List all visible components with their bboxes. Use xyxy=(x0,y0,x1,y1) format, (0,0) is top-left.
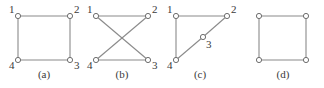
graph-node-b-1 xyxy=(93,13,98,18)
graph-node-label-c-1: 1 xyxy=(167,3,173,15)
graph-node-label-a-3: 3 xyxy=(74,59,80,71)
graph-node-label-c-3: 3 xyxy=(206,38,212,50)
graph-node-a-4 xyxy=(15,57,20,62)
graph-node-label-b-4: 4 xyxy=(87,59,93,71)
graph-node-c-1 xyxy=(173,13,178,18)
graph-node-c-4 xyxy=(173,57,178,62)
graph-node-label-c-2: 2 xyxy=(231,3,237,15)
graph-node-label-a-2: 2 xyxy=(74,3,80,15)
graph-node-a-2 xyxy=(67,13,72,18)
panel-caption-b: (b) xyxy=(116,68,129,81)
graph-node-c-3 xyxy=(200,34,205,39)
graph-node-a-3 xyxy=(67,57,72,62)
graph-node-label-a-1: 1 xyxy=(9,3,15,15)
graph-panel-a: 1234(a) xyxy=(9,3,80,81)
graph-node-b-2 xyxy=(145,13,150,18)
graph-node-label-c-4: 4 xyxy=(167,59,173,71)
graph-node-d-tr xyxy=(303,13,308,18)
graph-panel-d: (d) xyxy=(256,13,308,81)
graph-edge-c-3-2 xyxy=(203,16,227,37)
graph-node-d-br xyxy=(303,57,308,62)
graph-node-d-bl xyxy=(256,57,261,62)
panel-caption-a: (a) xyxy=(38,68,51,81)
graph-panel-b: 1234(b) xyxy=(87,3,158,81)
graph-panel-c: 1234(c) xyxy=(167,3,237,81)
graph-node-b-4 xyxy=(93,57,98,62)
graph-node-label-b-1: 1 xyxy=(87,3,93,15)
graph-node-b-3 xyxy=(145,57,150,62)
graph-node-c-2 xyxy=(224,13,229,18)
panel-caption-d: (d) xyxy=(277,68,290,81)
graph-figure: 1234(a)1234(b)1234(c)(d) xyxy=(0,0,324,88)
graph-node-label-b-2: 2 xyxy=(152,3,158,15)
graph-edge-c-4-3 xyxy=(176,37,203,60)
graph-node-label-b-3: 3 xyxy=(152,59,158,71)
graph-node-label-a-4: 4 xyxy=(9,59,15,71)
graph-figure-canvas: 1234(a)1234(b)1234(c)(d) xyxy=(0,0,324,88)
graph-node-a-1 xyxy=(15,13,20,18)
panel-caption-c: (c) xyxy=(194,68,207,81)
graph-node-d-tl xyxy=(256,13,261,18)
